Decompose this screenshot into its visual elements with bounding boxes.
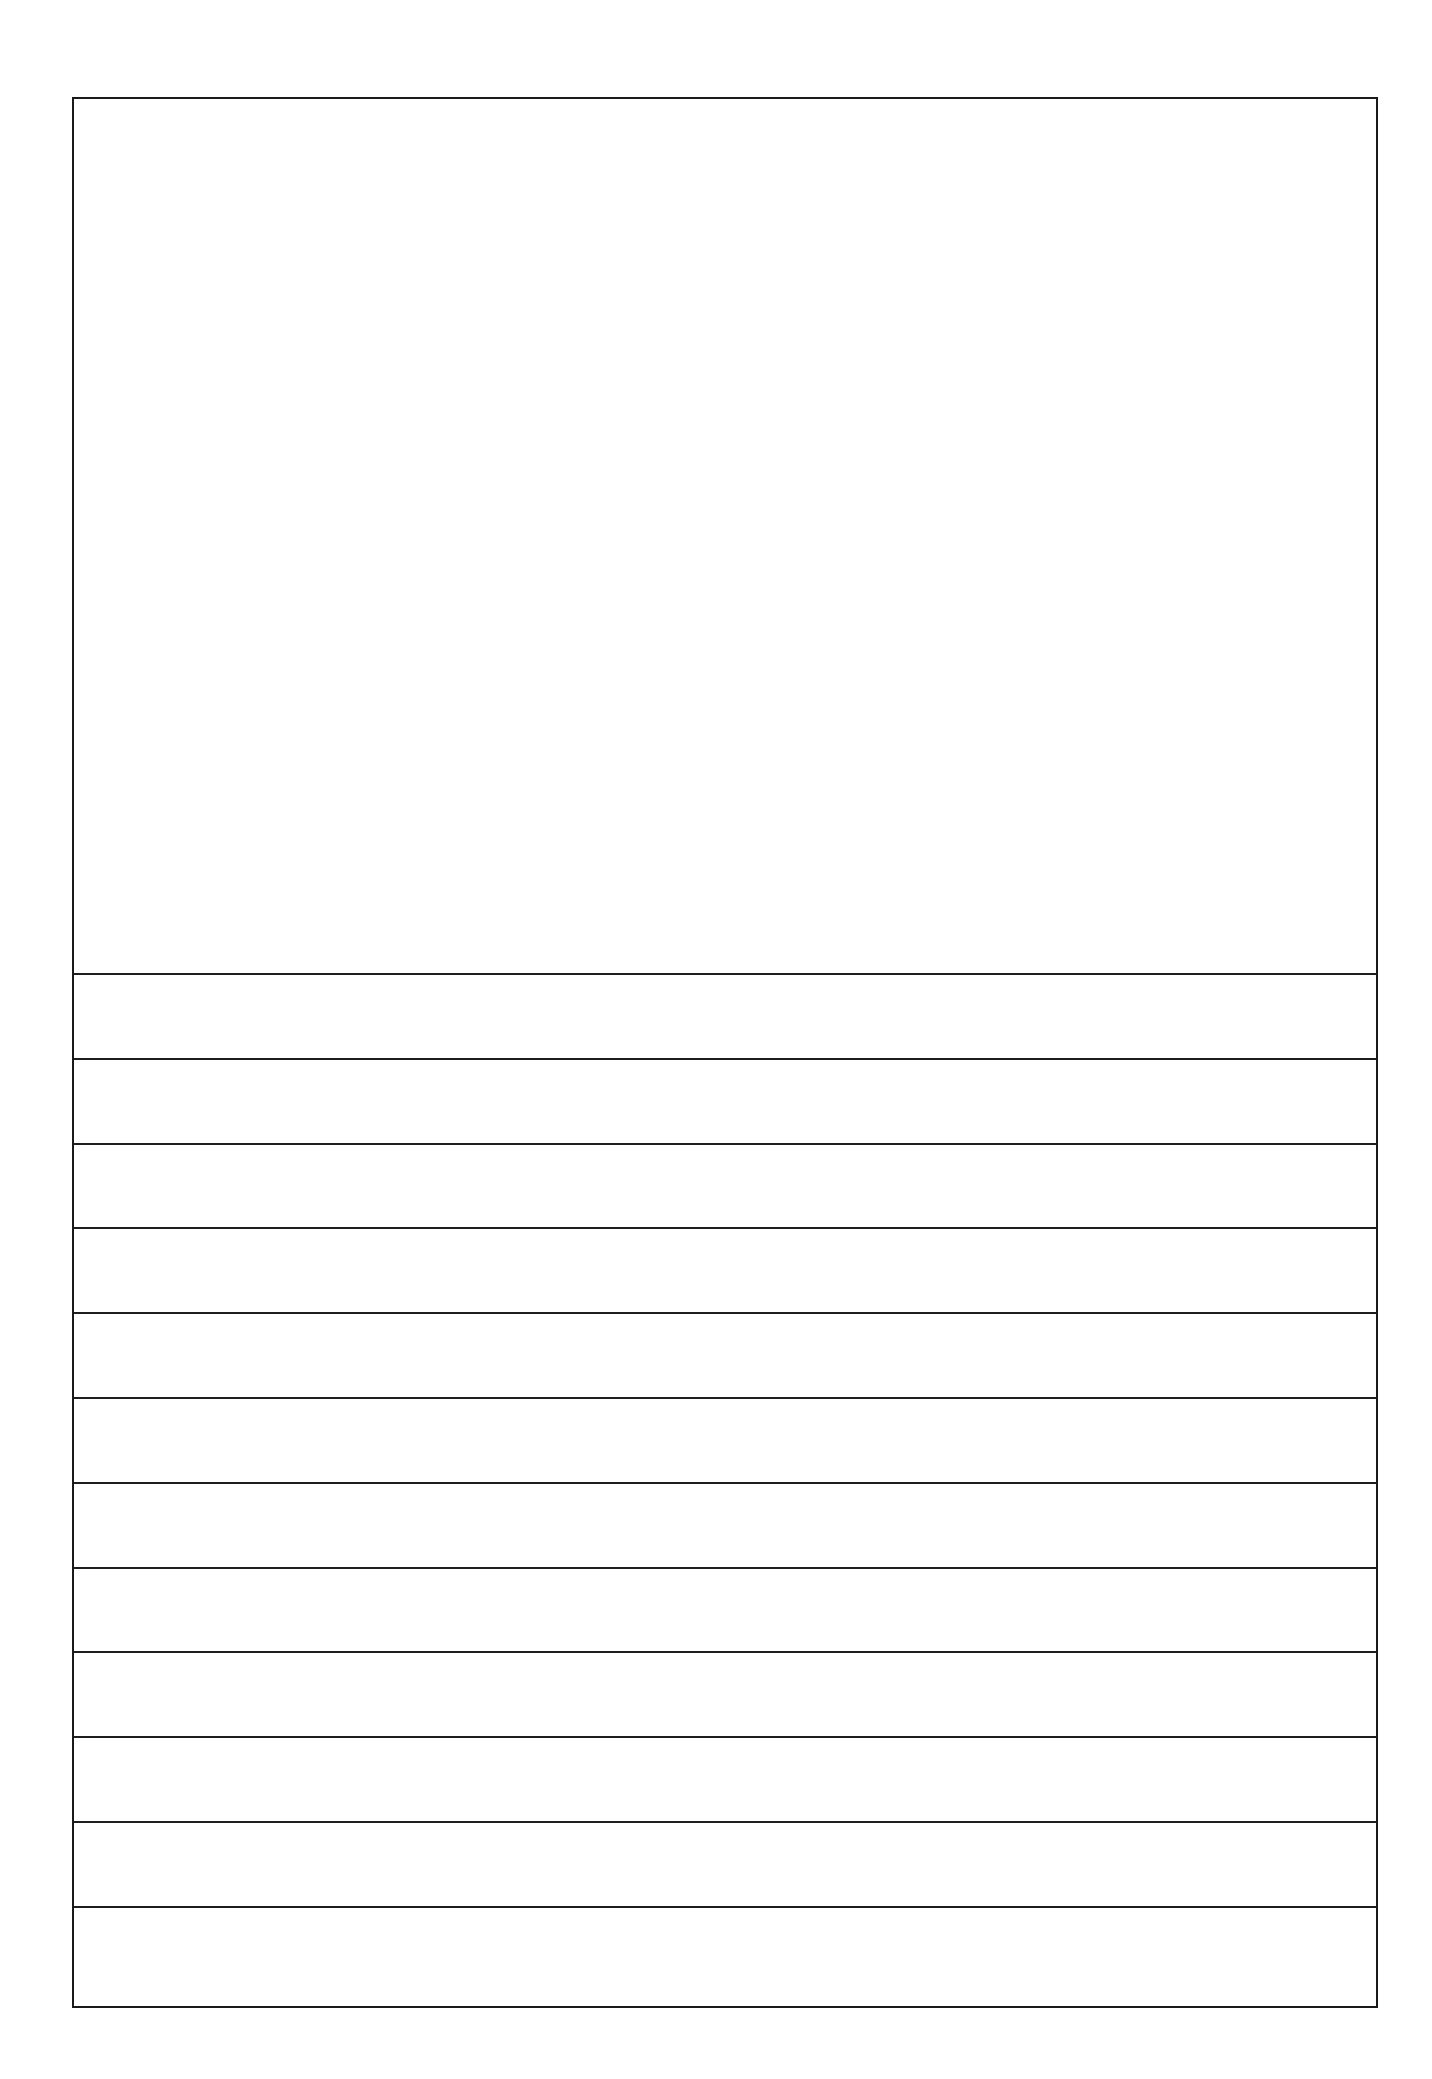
page-frame — [72, 97, 1378, 2008]
writing-line-1[interactable] — [74, 975, 1376, 1058]
writing-line-4[interactable] — [74, 1229, 1376, 1312]
writing-line-2[interactable] — [74, 1060, 1376, 1143]
writing-line-11[interactable] — [74, 1823, 1376, 1906]
writing-line-12[interactable] — [74, 1908, 1376, 2005]
writing-line-10[interactable] — [74, 1738, 1376, 1821]
writing-line-7[interactable] — [74, 1484, 1376, 1567]
writing-line-6[interactable] — [74, 1399, 1376, 1482]
writing-line-8[interactable] — [74, 1569, 1376, 1652]
writing-line-5[interactable] — [74, 1314, 1376, 1397]
writing-line-3[interactable] — [74, 1145, 1376, 1228]
drawing-area[interactable] — [74, 99, 1376, 974]
writing-line-9[interactable] — [74, 1653, 1376, 1736]
